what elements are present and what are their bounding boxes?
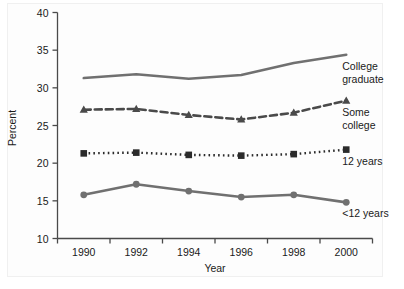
y-tick-label: 40 <box>37 7 49 19</box>
data-point-marker <box>185 152 192 159</box>
y-tick-label: 25 <box>37 120 49 132</box>
data-series-layer <box>80 55 351 206</box>
data-point-marker <box>343 199 350 206</box>
y-tick-label: 30 <box>37 82 49 94</box>
series-label-line: <12 years <box>342 207 388 219</box>
data-point-marker <box>133 149 140 156</box>
series-label-line: graduate <box>342 73 384 85</box>
series-line <box>84 184 347 202</box>
series-12-years <box>80 146 349 159</box>
chart-figure: 10152025303540 199019921994199619982000 … <box>0 0 404 289</box>
y-tick-label: 10 <box>37 233 49 245</box>
series-label-12-years: <12 years <box>342 207 388 219</box>
series-12-years <box>80 181 349 206</box>
x-axis-title: Year <box>204 262 226 274</box>
x-tick-label: 1990 <box>72 246 96 258</box>
y-tick-label: 35 <box>37 44 49 56</box>
x-tick-label: 2000 <box>335 246 359 258</box>
y-tick-label: 20 <box>37 157 49 169</box>
series-labels-layer: CollegegraduateSomecollege12 years<12 ye… <box>342 60 388 220</box>
y-tick-label: 15 <box>37 195 49 207</box>
data-point-marker <box>342 97 350 104</box>
series-line <box>84 101 347 120</box>
x-tick-label: 1992 <box>125 246 149 258</box>
x-tick-label: 1996 <box>230 246 254 258</box>
axis-lines <box>58 13 373 239</box>
y-axis-ticks: 10152025303540 <box>37 7 58 245</box>
series-label-12-years: 12 years <box>342 155 382 167</box>
data-point-marker <box>343 146 350 153</box>
data-point-marker <box>290 191 297 198</box>
series-label-line: 12 years <box>342 155 382 167</box>
series-label-college-graduate: Collegegraduate <box>342 60 384 85</box>
data-point-marker <box>80 191 87 198</box>
series-college-graduate <box>84 55 347 79</box>
data-point-marker <box>238 152 245 159</box>
series-some-college <box>80 97 351 123</box>
series-line <box>84 150 347 156</box>
data-point-marker <box>185 188 192 195</box>
data-point-marker <box>290 151 297 158</box>
data-point-marker <box>238 194 245 201</box>
data-point-marker <box>80 150 87 157</box>
series-label-line: Some <box>342 106 370 118</box>
line-chart-plot: 10152025303540 199019921994199619982000 … <box>0 0 404 289</box>
y-axis-title: Percent <box>6 110 18 146</box>
series-label-line: College <box>342 60 378 72</box>
x-axis-ticks: 199019921994199619982000 <box>58 239 373 258</box>
series-label-some-college: Somecollege <box>342 106 375 131</box>
x-tick-label: 1998 <box>282 246 306 258</box>
series-line <box>84 55 347 79</box>
x-tick-label: 1994 <box>177 246 201 258</box>
series-label-line: college <box>342 119 375 131</box>
data-point-marker <box>133 181 140 188</box>
